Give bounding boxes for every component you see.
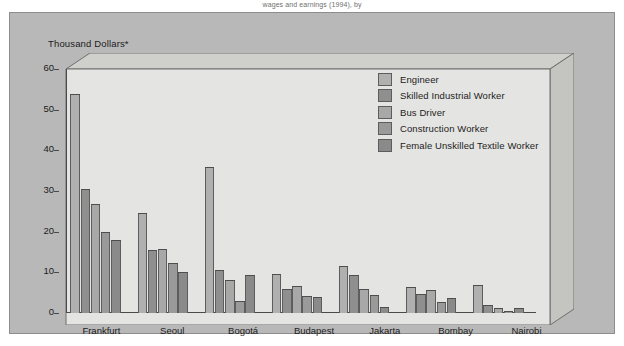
bar-top-edge	[349, 275, 359, 276]
legend-label: Construction Worker	[400, 123, 488, 134]
bar-top-edge	[101, 232, 111, 233]
legend-label: Female Unskilled Textile Worker	[400, 140, 538, 151]
x-axis-label: Bogotá	[208, 325, 279, 341]
bar-top-edge	[70, 94, 80, 95]
bar	[302, 296, 312, 313]
legend-label: Engineer	[400, 74, 439, 85]
bar	[81, 189, 91, 313]
y-tick-label: 20	[32, 227, 54, 235]
bar-top-edge	[473, 285, 483, 286]
x-axis-label: Frankfurt	[66, 325, 137, 341]
y-tick-label: 60	[32, 64, 54, 72]
x-axis-label: Nairobi	[491, 325, 562, 341]
y-tick-label: 0	[32, 308, 54, 316]
bar	[168, 263, 178, 313]
bar	[245, 275, 255, 313]
bar-top-edge	[406, 287, 416, 288]
bar-top-edge	[447, 298, 457, 299]
bar-top-edge	[178, 272, 188, 273]
bar	[349, 275, 359, 313]
legend-swatch	[378, 139, 392, 152]
y-tick-mark	[54, 313, 59, 314]
bar	[205, 167, 215, 313]
bar-group-frankfurt	[66, 69, 133, 313]
bar-top-edge	[235, 301, 245, 302]
legend-swatch	[378, 89, 392, 102]
bar-top-edge	[215, 270, 225, 271]
x-axis-label: Jakarta	[349, 325, 420, 341]
legend-swatch	[378, 106, 392, 119]
y-tick-mark	[54, 150, 59, 151]
bar	[483, 305, 493, 313]
bar	[426, 290, 436, 313]
bar	[272, 274, 282, 313]
bar-top-edge	[504, 311, 514, 312]
bar	[514, 308, 524, 313]
bar-top-edge	[514, 308, 524, 309]
bar-top-edge	[168, 263, 178, 264]
legend-swatch	[378, 122, 392, 135]
bar	[101, 232, 111, 313]
bar-top-edge	[138, 213, 148, 214]
bar	[416, 294, 426, 313]
legend-item: Engineer	[378, 71, 558, 88]
bar	[359, 289, 369, 313]
x-axis-label: Bombay	[420, 325, 491, 341]
legend-item: Skilled Industrial Worker	[378, 88, 558, 105]
bar	[70, 94, 80, 313]
bar	[437, 302, 447, 313]
legend-item: Bus Driver	[378, 104, 558, 121]
y-tick-label: 30	[32, 186, 54, 194]
bar	[339, 266, 349, 313]
bar	[370, 295, 380, 313]
bar-top-edge	[205, 167, 215, 168]
legend-item: Construction Worker	[378, 121, 558, 138]
bar-top-edge	[359, 289, 369, 290]
bar	[282, 289, 292, 313]
bar	[494, 308, 504, 313]
y-tick-label: 50	[32, 105, 54, 113]
bar-top-edge	[494, 308, 504, 309]
figure-frame: Thousand Dollars* 0102030405060 Frankfur…	[9, 12, 615, 334]
y-tick-mark	[54, 110, 59, 111]
bar	[178, 272, 188, 313]
bar-top-edge	[483, 305, 493, 306]
x-axis-label: Seoul	[137, 325, 208, 341]
bar-top-edge	[111, 240, 121, 241]
bar-top-edge	[245, 275, 255, 276]
bar-top-edge	[370, 295, 380, 296]
bar	[91, 204, 101, 313]
bar-top-edge	[302, 296, 312, 297]
bar	[313, 297, 323, 313]
bar-top-edge	[225, 280, 235, 281]
bar	[111, 240, 121, 313]
y-tick-mark	[54, 232, 59, 233]
x-axis-label: Budapest	[279, 325, 350, 341]
bar	[138, 213, 148, 313]
bar-top-edge	[158, 249, 168, 250]
bar-group-seoul	[133, 69, 200, 313]
chart-legend: EngineerSkilled Industrial WorkerBus Dri…	[378, 71, 558, 154]
bar-top-edge	[313, 297, 323, 298]
bar-top-edge	[339, 266, 349, 267]
bar	[225, 280, 235, 313]
y-tick-mark	[54, 272, 59, 273]
legend-swatch	[378, 73, 392, 86]
bar	[215, 270, 225, 313]
y-tick-mark	[54, 69, 59, 70]
top-caption-fragment: wages and earnings (1994), by	[0, 0, 624, 10]
chart-figure: wages and earnings (1994), by Thousand D…	[0, 0, 624, 346]
bar-top-edge	[282, 289, 292, 290]
bar-top-edge	[437, 302, 447, 303]
bar	[380, 307, 390, 313]
bar-top-edge	[426, 290, 436, 291]
y-tick-label: 40	[32, 145, 54, 153]
x-axis-labels: FrankfurtSeoulBogotáBudapestJakartaBomba…	[66, 325, 562, 341]
y-axis-ticks: 0102030405060	[32, 53, 54, 325]
bar	[235, 301, 245, 313]
bar-group-budapest	[267, 69, 334, 313]
bar-top-edge	[380, 307, 390, 308]
bar-group-bogot	[200, 69, 267, 313]
bar-top-edge	[292, 286, 302, 287]
y-tick-mark	[54, 191, 59, 192]
